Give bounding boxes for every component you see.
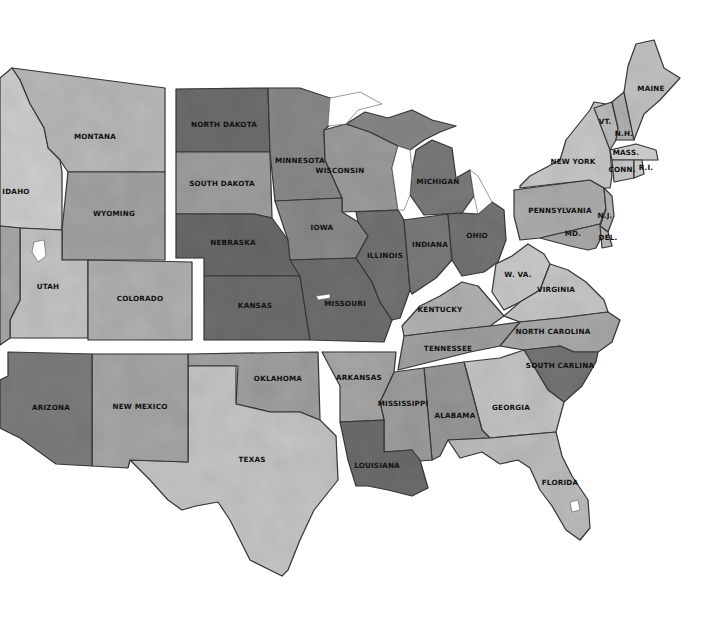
lake-okeechobee xyxy=(570,500,580,512)
state-label-wisconsin: WISCONSIN xyxy=(316,166,365,175)
state-label-new-jersey: N.J. xyxy=(598,211,613,220)
state-label-illinois: ILLINOIS xyxy=(367,251,403,260)
state-label-pennsylvania: PENNSYLVANIA xyxy=(528,206,592,215)
state-label-maryland: MD. xyxy=(565,229,581,238)
state-label-iowa: IOWA xyxy=(311,223,334,232)
state-label-minnesota: MINNESOTA xyxy=(275,156,325,165)
state-label-georgia: GEORGIA xyxy=(492,403,530,412)
state-label-kentucky: KENTUCKY xyxy=(418,305,463,314)
state-label-tennessee: TENNESSEE xyxy=(424,344,472,353)
state-label-montana: MONTANA xyxy=(74,132,116,141)
state-label-south-carolina: SOUTH CARLINA xyxy=(526,361,595,370)
state-label-west-virginia: W. VA. xyxy=(504,270,531,279)
state-label-delaware: DEL. xyxy=(599,233,618,242)
state-label-nebraska: NEBRASKA xyxy=(210,238,256,247)
state-label-kansas: KANSAS xyxy=(238,301,272,310)
state-label-vermont: VT. xyxy=(599,117,612,126)
state-label-michigan: MICHIGAN xyxy=(417,177,460,186)
state-new-mexico xyxy=(92,354,188,468)
us-map: MONTANAIDAHOWYOMINGUTAHCOLORADONORTH DAK… xyxy=(0,0,718,618)
state-label-rhode-island: R.I. xyxy=(639,163,654,172)
state-label-alabama: ALABAMA xyxy=(435,411,476,420)
state-label-arkansas: ARKANSAS xyxy=(336,373,382,382)
state-label-massachusetts: MASS. xyxy=(613,148,639,157)
state-label-new-mexico: NEW MEXICO xyxy=(112,402,167,411)
state-label-indiana: INDIANA xyxy=(412,240,448,249)
state-label-north-carolina: NORTH CAROLINA xyxy=(516,327,591,336)
state-label-maine: MAINE xyxy=(637,84,664,93)
state-label-mississippi: MISSISSIPPI xyxy=(378,399,429,408)
state-label-north-dakota: NORTH DAKOTA xyxy=(191,120,257,129)
state-label-wyoming: WYOMING xyxy=(93,209,135,218)
state-label-missouri: MISSOURI xyxy=(324,299,366,308)
state-label-ohio: OHIO xyxy=(466,231,488,240)
state-label-arizona: ARIZONA xyxy=(32,403,70,412)
state-indiana xyxy=(404,214,452,294)
state-label-oklahoma: OKLAHOMA xyxy=(254,374,303,383)
state-label-virginia: VIRGINIA xyxy=(537,285,575,294)
state-label-louisiana: LOUISIANA xyxy=(354,461,400,470)
state-label-utah: UTAH xyxy=(37,282,60,291)
state-label-new-york: NEW YORK xyxy=(550,157,595,166)
state-label-idaho: IDAHO xyxy=(2,187,29,196)
state-label-colorado: COLORADO xyxy=(117,294,164,303)
state-label-new-hampshire: N.H. xyxy=(615,129,633,138)
state-label-south-dakota: SOUTH DAKOTA xyxy=(189,179,255,188)
state-label-texas: TEXAS xyxy=(238,455,265,464)
state-label-florida: FLORIDA xyxy=(542,478,579,487)
state-label-connecticut: CONN. xyxy=(608,165,635,174)
